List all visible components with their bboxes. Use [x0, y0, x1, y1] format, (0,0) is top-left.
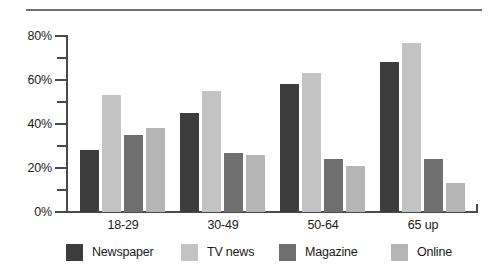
y-tick-20 [55, 167, 67, 169]
bar-online-50-64 [346, 166, 365, 212]
bar-group-18-29 [80, 36, 166, 212]
bar-group-30-49 [180, 36, 266, 212]
plot-area: 80% 60% 40% 20% 0% 18-29 30-49 50-64 65 … [0, 0, 493, 274]
bar-group-65-up [380, 36, 466, 212]
y-tick-30 [57, 145, 67, 147]
legend-label-tv-news: TV news [207, 245, 254, 259]
legend-swatch-newspaper [66, 244, 83, 261]
y-tick-80 [55, 35, 67, 37]
bar-newspaper-18-29 [80, 150, 99, 212]
y-tick-50 [57, 101, 67, 103]
y-tick-40 [55, 123, 67, 125]
legend-label-newspaper: Newspaper [92, 245, 153, 259]
legend-item-newspaper[interactable]: Newspaper [66, 243, 153, 261]
bar-tv-news-65-up [402, 43, 421, 212]
legend-item-online[interactable]: Online [391, 243, 452, 261]
bar-tv-news-50-64 [302, 73, 321, 212]
y-tick-60 [55, 79, 67, 81]
bar-online-18-29 [146, 128, 165, 212]
bar-magazine-65-up [424, 159, 443, 212]
legend-swatch-tv-news [181, 244, 198, 261]
bar-magazine-18-29 [124, 135, 143, 212]
legend-label-online: Online [417, 245, 452, 259]
y-axis-label-80: 80% [2, 29, 52, 43]
y-tick-0 [55, 211, 67, 213]
legend-label-magazine: Magazine [305, 245, 358, 259]
legend-item-tv-news[interactable]: TV news [181, 243, 254, 261]
bar-tv-news-18-29 [102, 95, 121, 212]
x-axis-label-18-29: 18-29 [80, 218, 166, 232]
y-axis-label-60: 60% [2, 73, 52, 87]
y-tick-10 [57, 189, 67, 191]
legend-swatch-magazine [279, 244, 296, 261]
bar-newspaper-30-49 [180, 113, 199, 212]
bar-group-50-64 [280, 36, 366, 212]
bar-magazine-30-49 [224, 153, 243, 212]
y-axis-label-40: 40% [2, 117, 52, 131]
x-axis-end-tick [476, 204, 478, 213]
bar-magazine-50-64 [324, 159, 343, 212]
legend-swatch-online [391, 244, 408, 261]
bar-newspaper-65-up [380, 62, 399, 212]
bar-online-65-up [446, 183, 465, 212]
y-tick-70 [57, 57, 67, 59]
bar-chart-figure: 80% 60% 40% 20% 0% 18-29 30-49 50-64 65 … [0, 0, 493, 274]
x-axis-label-50-64: 50-64 [280, 218, 366, 232]
y-axis-label-0: 0% [2, 205, 52, 219]
bar-online-30-49 [246, 155, 265, 212]
bar-tv-news-30-49 [202, 91, 221, 212]
y-axis-label-20: 20% [2, 161, 52, 175]
x-axis-label-30-49: 30-49 [180, 218, 266, 232]
bar-newspaper-50-64 [280, 84, 299, 212]
chart-legend: Newspaper TV news Magazine Online [66, 243, 478, 265]
x-axis-label-65-up: 65 up [380, 218, 466, 232]
legend-item-magazine[interactable]: Magazine [279, 243, 358, 261]
